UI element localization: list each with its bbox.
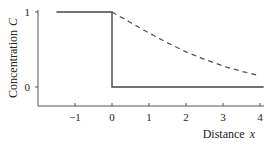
x-axis-title: Distancex — [203, 127, 256, 141]
x-tick-label: 2 — [183, 111, 189, 123]
y-tick-label: 1 — [25, 6, 31, 18]
x-tick-label: 0 — [109, 111, 115, 123]
x-tick-label: −1 — [69, 111, 81, 123]
x-axis: −101234 Distancex — [38, 103, 264, 141]
dashed-diffusion-curve — [112, 12, 260, 76]
x-tick-label: 3 — [220, 111, 226, 123]
plot-series — [57, 12, 264, 87]
x-tick-label: 1 — [146, 111, 152, 123]
y-tick-label: 0 — [25, 81, 31, 93]
x-tick-label: 4 — [257, 111, 263, 123]
solid-step-line — [57, 12, 264, 87]
y-axis: 1 0 ConcentrationC — [6, 6, 38, 106]
concentration-chart: 1 0 ConcentrationC −101234 Distancex — [0, 0, 272, 151]
y-axis-title: ConcentrationC — [6, 17, 20, 98]
